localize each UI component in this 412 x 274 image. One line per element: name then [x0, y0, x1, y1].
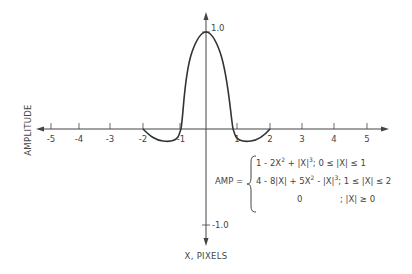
x-tick-label: -3	[106, 134, 114, 144]
amp-label: AMP =	[215, 176, 243, 186]
x-tick-label: 3	[299, 134, 304, 144]
amplitude-chart: -5 -4 -3 -2 -1 1 2 3 4 5 1.0 -1.0 X, PIX…	[0, 0, 412, 274]
formula-case-1: 1 - 2X2 + |X|3; 0 ≤ |X| ≤ 1	[256, 158, 366, 168]
y-axis-title: AMPLITUDE	[23, 104, 33, 156]
case-2-term-a: 4 - 8|X| + 5X	[256, 176, 311, 186]
x-axis-left-arrow-icon	[36, 127, 44, 132]
x-tick-label: -5	[47, 134, 55, 144]
formula-case-3-value: 0	[297, 194, 302, 204]
y-axis-down-arrow-icon	[204, 238, 209, 246]
x-axis-right-arrow-icon	[381, 127, 389, 132]
x-tick-label: -2	[139, 134, 147, 144]
case-2-term-b: - |X|	[314, 176, 334, 186]
x-ticks	[51, 123, 367, 129]
formula-case-3-condition: ; |X| ≥ 0	[340, 194, 375, 204]
case-1-condition: ; 0 ≤ |X| ≤ 1	[313, 158, 366, 168]
axes	[40, 17, 384, 241]
formula-case-2: 4 - 8|X| + 5X2 - |X|3; 1 ≤ |X| ≤ 2	[256, 176, 391, 186]
x-tick-label: 5	[364, 134, 369, 144]
x-tick-label: 2	[267, 134, 272, 144]
x-axis-title: X, PIXELS	[185, 251, 228, 261]
x-tick-label: 4	[331, 134, 336, 144]
case-2-condition: ; 1 ≤ |X| ≤ 2	[338, 176, 391, 186]
case-1-term-b: + |X|	[285, 158, 309, 168]
y-axis-up-arrow-icon	[204, 12, 209, 20]
case-1-term-a: 1 - 2X	[256, 158, 281, 168]
x-tick-label: -4	[75, 134, 83, 144]
y-tick-label-max: 1.0	[211, 23, 225, 33]
y-tick-label-min: -1.0	[212, 220, 229, 230]
x-tick-labels: -5 -4 -3 -2 -1 1 2 3 4 5	[47, 134, 370, 144]
